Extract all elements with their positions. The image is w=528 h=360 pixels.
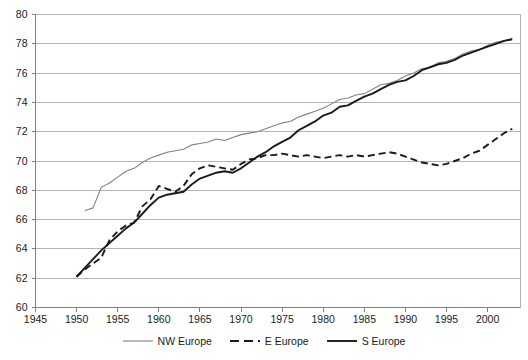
- tick-marks: [32, 15, 488, 312]
- y-tick-label: 78: [4, 38, 28, 49]
- x-tick-label: 1990: [385, 314, 425, 325]
- x-tick-label: 1960: [139, 314, 179, 325]
- gridlines: [36, 15, 521, 308]
- legend-item-s-europe[interactable]: S Europe: [327, 336, 406, 347]
- x-tick-label: 1950: [57, 314, 97, 325]
- series-line-e-europe: [77, 129, 513, 277]
- legend-label: S Europe: [362, 336, 406, 347]
- legend-item-nw-europe[interactable]: NW Europe: [123, 336, 212, 347]
- y-tick-label: 70: [4, 156, 28, 167]
- x-tick-label: 1955: [98, 314, 138, 325]
- y-tick-label: 66: [4, 214, 28, 225]
- series-line-s-europe: [77, 39, 513, 276]
- y-tick-label: 80: [4, 9, 28, 20]
- x-tick-label: 1995: [427, 314, 467, 325]
- x-tick-label: 2000: [468, 314, 508, 325]
- y-tick-label: 62: [4, 273, 28, 284]
- x-tick-label: 1945: [16, 314, 56, 325]
- data-series: [77, 38, 513, 277]
- legend-swatch-icon: [123, 336, 153, 346]
- line-chart: 6062646668707274767880 19451950195519601…: [0, 0, 528, 360]
- series-line-nw-europe: [85, 38, 512, 211]
- y-tick-label: 72: [4, 126, 28, 137]
- legend-swatch-icon: [230, 336, 260, 346]
- legend-label: E Europe: [265, 336, 309, 347]
- x-tick-label: 1965: [180, 314, 220, 325]
- y-tick-label: 60: [4, 302, 28, 313]
- plot-area: [0, 0, 528, 360]
- x-tick-label: 1985: [344, 314, 384, 325]
- legend-swatch-icon: [327, 336, 357, 346]
- x-tick-label: 1980: [303, 314, 343, 325]
- x-tick-label: 1970: [221, 314, 261, 325]
- x-tick-label: 1975: [262, 314, 302, 325]
- y-tick-label: 74: [4, 97, 28, 108]
- legend-label: NW Europe: [158, 336, 212, 347]
- y-tick-label: 76: [4, 68, 28, 79]
- y-tick-label: 68: [4, 185, 28, 196]
- chart-legend: NW EuropeE EuropeS Europe: [0, 336, 528, 347]
- y-tick-label: 64: [4, 243, 28, 254]
- legend-item-e-europe[interactable]: E Europe: [230, 336, 309, 347]
